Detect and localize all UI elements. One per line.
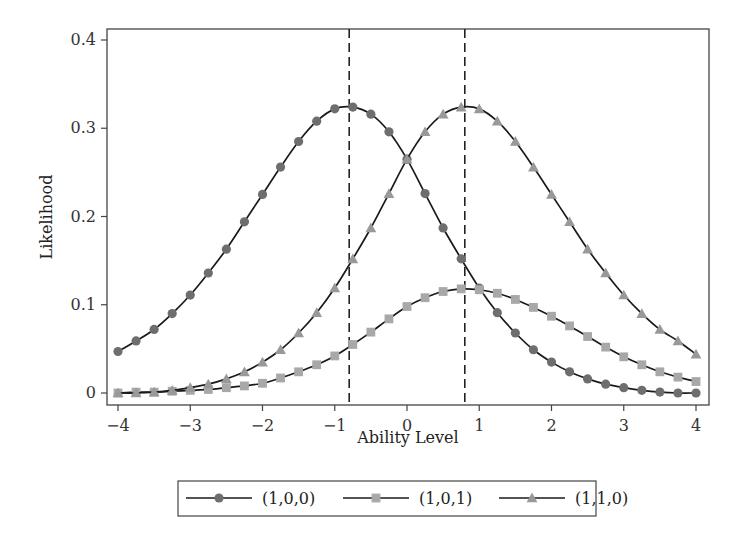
y-tick-label: 0.1: [71, 295, 96, 314]
circle-marker: [204, 268, 213, 277]
x-tick-label: 2: [546, 416, 556, 435]
circle-marker: [420, 189, 429, 198]
circle-marker: [214, 493, 223, 502]
triangle-marker: [564, 216, 575, 226]
triangle-marker: [673, 336, 684, 346]
plot-frame: [107, 29, 709, 405]
triangle-marker: [384, 188, 395, 198]
likelihood-chart: −4−3−2−101234 00.10.20.30.4 Ability Leve…: [0, 0, 744, 547]
circle-marker: [583, 374, 592, 383]
y-tick-label: 0: [86, 383, 96, 402]
x-tick-label: 3: [619, 416, 629, 435]
square-marker: [222, 383, 231, 392]
triangle-marker: [239, 366, 250, 376]
circle-marker: [384, 127, 393, 136]
square-marker: [547, 312, 556, 321]
square-marker: [258, 379, 267, 388]
square-marker: [366, 328, 375, 337]
x-tick-label: −4: [106, 416, 130, 435]
square-marker: [475, 285, 484, 294]
circle-marker: [655, 388, 664, 397]
legend-label: (1,0,1): [419, 489, 472, 508]
square-marker: [348, 340, 357, 349]
triangle-marker: [691, 349, 702, 359]
circle-marker: [330, 104, 339, 113]
circle-marker: [348, 102, 357, 111]
y-axis: 00.10.20.30.4: [71, 30, 107, 402]
square-marker: [385, 314, 394, 323]
circle-marker: [312, 117, 321, 126]
square-marker: [601, 343, 610, 352]
triangle-marker: [329, 283, 340, 293]
circle-marker: [131, 336, 140, 345]
circle-marker: [168, 309, 177, 318]
triangle-marker: [257, 357, 268, 367]
square-marker: [240, 382, 249, 391]
y-tick-label: 0.2: [71, 207, 96, 226]
y-tick-label: 0.3: [71, 118, 96, 137]
circle-marker: [619, 383, 628, 392]
series-(1,0,1): [114, 284, 701, 397]
circle-marker: [565, 367, 574, 376]
square-marker: [403, 302, 412, 311]
circle-marker: [457, 254, 466, 263]
x-tick-label: 1: [474, 416, 484, 435]
square-marker: [372, 494, 381, 503]
y-axis-title: Likelihood: [37, 175, 56, 260]
square-marker: [439, 287, 448, 296]
square-marker: [276, 374, 285, 383]
circle-marker: [637, 386, 646, 395]
square-marker: [655, 367, 664, 376]
x-tick-label: −1: [323, 416, 347, 435]
square-marker: [421, 293, 430, 302]
square-marker: [457, 284, 466, 293]
circle-marker: [258, 190, 267, 199]
legend-label: (1,0,0): [262, 489, 315, 508]
circle-marker: [673, 388, 682, 397]
circle-marker: [547, 358, 556, 367]
x-tick-label: −2: [251, 416, 275, 435]
x-axis-title: Ability Level: [356, 428, 458, 447]
circle-marker: [222, 245, 231, 254]
square-marker: [619, 352, 628, 361]
y-tick-label: 0.4: [71, 30, 96, 49]
square-marker: [529, 303, 538, 312]
series-(1,0,0): [113, 102, 700, 397]
triangle-marker: [582, 244, 593, 254]
circle-marker: [511, 328, 520, 337]
circle-marker: [691, 388, 700, 397]
square-marker: [583, 332, 592, 341]
legend-label: (1,1,0): [575, 489, 628, 508]
triangle-marker: [438, 109, 449, 119]
triangle-marker: [528, 162, 539, 172]
series-(1,1,0): [113, 102, 702, 398]
square-marker: [511, 295, 520, 304]
circle-marker: [439, 223, 448, 232]
x-tick-label: −3: [178, 416, 202, 435]
circle-marker: [150, 325, 159, 334]
circle-marker: [294, 137, 303, 146]
square-marker: [312, 360, 321, 369]
square-marker: [493, 289, 502, 298]
square-marker: [637, 360, 646, 369]
reference-lines: [349, 29, 465, 405]
legend: (1,0,0)(1,0,1)(1,1,0): [178, 481, 628, 516]
circle-marker: [186, 290, 195, 299]
square-marker: [565, 322, 574, 331]
square-marker: [674, 373, 683, 382]
circle-marker: [529, 345, 538, 354]
x-tick-label: 4: [691, 416, 701, 435]
triangle-marker: [546, 189, 557, 199]
circle-marker: [601, 380, 610, 389]
circle-marker: [113, 347, 122, 356]
series-layer: [113, 102, 702, 398]
circle-marker: [240, 217, 249, 226]
circle-marker: [366, 110, 375, 119]
circle-marker: [493, 308, 502, 317]
square-marker: [294, 367, 303, 376]
circle-marker: [276, 162, 285, 171]
square-marker: [330, 352, 339, 361]
triangle-marker: [365, 223, 376, 233]
square-marker: [692, 377, 701, 386]
